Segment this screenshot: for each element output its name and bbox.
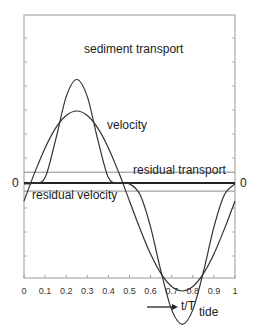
x-tick-label: 0.9 xyxy=(208,287,221,296)
x-axis-arrowhead-icon xyxy=(172,304,178,310)
x-tick-label: 0.8 xyxy=(187,287,200,296)
x-axis-label: t/Ttide xyxy=(181,300,218,312)
x-axis-label-main: t/T xyxy=(181,299,195,313)
zero-label-left: 0 xyxy=(12,177,19,189)
residual-velocity-label: residual velocity xyxy=(32,189,117,201)
x-tick-label: 0.3 xyxy=(81,287,94,296)
x-axis-label-sub: tide xyxy=(199,305,218,319)
x-tick-label: 0.1 xyxy=(39,287,52,296)
x-tick-label: 1 xyxy=(232,287,237,296)
y-axis-ticks xyxy=(24,38,235,256)
x-tick-label: 0.5 xyxy=(123,287,136,296)
residual-transport-label: residual transport xyxy=(133,164,226,176)
x-tick-label: 0.7 xyxy=(165,287,178,296)
sediment-transport-label: sediment transport xyxy=(84,43,183,55)
zero-label-right: 0 xyxy=(240,177,247,189)
x-tick-label: 0 xyxy=(21,287,26,296)
x-tick-label: 0.2 xyxy=(60,287,73,296)
x-tick-label: 0.6 xyxy=(144,287,157,296)
velocity-label: velocity xyxy=(107,119,147,131)
x-tick-label: 0.4 xyxy=(102,287,115,296)
